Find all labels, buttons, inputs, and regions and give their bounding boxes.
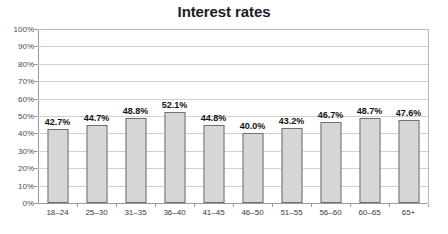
y-axis-tick-mark bbox=[34, 46, 38, 47]
x-axis-tick-mark bbox=[272, 204, 273, 207]
y-axis-tick-label: 10% bbox=[0, 181, 34, 190]
y-axis-labels: 0%10%20%30%40%50%60%70%80%90%100% bbox=[0, 0, 34, 234]
x-axis-tick-label: 60–65 bbox=[350, 208, 389, 217]
x-axis-tick-label: 65+ bbox=[389, 208, 428, 217]
x-axis-tick-label: 41–45 bbox=[194, 208, 233, 217]
x-axis-tick-label: 56–60 bbox=[311, 208, 350, 217]
bar[interactable] bbox=[281, 128, 302, 203]
x-axis-tick-mark bbox=[233, 204, 234, 207]
y-axis-tick-mark bbox=[34, 203, 38, 204]
bar-chart: Interest rates 0%10%20%30%40%50%60%70%80… bbox=[0, 0, 448, 234]
y-axis-tick-label: 40% bbox=[0, 129, 34, 138]
bar-value-label: 42.7% bbox=[45, 117, 71, 127]
bar[interactable] bbox=[203, 125, 224, 203]
y-axis-tick-label: 80% bbox=[0, 59, 34, 68]
bar-value-label: 48.8% bbox=[123, 106, 149, 116]
y-axis-tick-mark bbox=[34, 116, 38, 117]
x-axis-tick-mark bbox=[116, 204, 117, 207]
bar-slot: 46.7% bbox=[311, 29, 350, 203]
y-axis-tick-mark bbox=[34, 64, 38, 65]
bar-slot: 48.7% bbox=[350, 29, 389, 203]
x-axis-tick-label: 18–24 bbox=[38, 208, 77, 217]
y-axis-tick-label: 50% bbox=[0, 112, 34, 121]
x-axis-tick-mark bbox=[389, 204, 390, 207]
x-axis-tick-mark bbox=[428, 204, 429, 207]
bar-slot: 42.7% bbox=[38, 29, 77, 203]
bar[interactable] bbox=[320, 122, 341, 203]
bar-value-label: 52.1% bbox=[162, 100, 188, 110]
x-axis-tick-mark bbox=[155, 204, 156, 207]
bar-slot: 40.0% bbox=[233, 29, 272, 203]
y-axis-tick-label: 70% bbox=[0, 77, 34, 86]
bar[interactable] bbox=[86, 125, 107, 203]
x-axis-tick-mark bbox=[77, 204, 78, 207]
bar[interactable] bbox=[164, 112, 185, 203]
bar-value-label: 46.7% bbox=[318, 110, 344, 120]
bar-slot: 47.6% bbox=[389, 29, 428, 203]
bar[interactable] bbox=[47, 129, 68, 203]
bar-value-label: 47.6% bbox=[396, 108, 422, 118]
y-axis-tick-label: 90% bbox=[0, 42, 34, 51]
y-axis-tick-label: 20% bbox=[0, 164, 34, 173]
y-axis-tick-mark bbox=[34, 133, 38, 134]
bar-value-label: 48.7% bbox=[357, 106, 383, 116]
x-axis-tick-label: 46–50 bbox=[233, 208, 272, 217]
bar-slot: 43.2% bbox=[272, 29, 311, 203]
bar-slot: 44.8% bbox=[194, 29, 233, 203]
bar-value-label: 44.7% bbox=[84, 113, 110, 123]
y-axis-tick-mark bbox=[34, 81, 38, 82]
x-axis-tick-mark bbox=[194, 204, 195, 207]
x-axis-tick-label: 36–40 bbox=[155, 208, 194, 217]
y-axis-tick-label: 60% bbox=[0, 94, 34, 103]
x-axis-labels: 18–2425–3031–3536–4041–4546–5051–5556–60… bbox=[38, 208, 428, 228]
x-axis-tick-label: 25–30 bbox=[77, 208, 116, 217]
x-axis-tick-mark bbox=[350, 204, 351, 207]
y-axis-tick-mark bbox=[34, 186, 38, 187]
y-axis-tick-mark bbox=[34, 99, 38, 100]
bar-slot: 44.7% bbox=[77, 29, 116, 203]
bar[interactable] bbox=[398, 120, 419, 203]
bar-value-label: 44.8% bbox=[201, 113, 227, 123]
bar-value-label: 43.2% bbox=[279, 116, 305, 126]
bar[interactable] bbox=[359, 118, 380, 203]
plot-area: 42.7%44.7%48.8%52.1%44.8%40.0%43.2%46.7%… bbox=[38, 29, 429, 203]
y-axis-tick-mark bbox=[34, 29, 38, 30]
y-axis-tick-mark bbox=[34, 151, 38, 152]
x-axis-tick-mark bbox=[311, 204, 312, 207]
x-axis-tick-label: 51–55 bbox=[272, 208, 311, 217]
bar[interactable] bbox=[125, 118, 146, 203]
y-axis-tick-label: 30% bbox=[0, 146, 34, 155]
x-axis-tick-label: 31–35 bbox=[116, 208, 155, 217]
bar-value-label: 40.0% bbox=[240, 121, 266, 131]
bar[interactable] bbox=[242, 133, 263, 203]
chart-title: Interest rates bbox=[0, 3, 448, 20]
bar-slot: 48.8% bbox=[116, 29, 155, 203]
y-axis-tick-label: 100% bbox=[0, 25, 34, 34]
y-axis-tick-label: 0% bbox=[0, 199, 34, 208]
y-axis-tick-mark bbox=[34, 168, 38, 169]
bar-slot: 52.1% bbox=[155, 29, 194, 203]
